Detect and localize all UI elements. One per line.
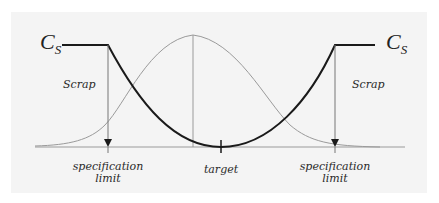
scrap-label-left: Scrap bbox=[63, 79, 96, 91]
target-label: target bbox=[191, 164, 251, 176]
spec-limit-label-left: specification limit bbox=[63, 161, 153, 185]
spec-limit-label-right: specification limit bbox=[290, 161, 380, 185]
cost-label-left: CS bbox=[40, 29, 61, 58]
cost-label-right: CS bbox=[386, 29, 407, 58]
spec-limit-label-right-line2: limit bbox=[290, 173, 380, 185]
loss-function-curve bbox=[62, 45, 375, 147]
arrowhead-left-icon bbox=[104, 139, 112, 147]
arrowhead-right-icon bbox=[331, 139, 339, 147]
scrap-label-right: Scrap bbox=[352, 79, 385, 91]
spec-limit-label-left-line2: limit bbox=[63, 173, 153, 185]
normal-distribution-curve bbox=[35, 35, 380, 147]
